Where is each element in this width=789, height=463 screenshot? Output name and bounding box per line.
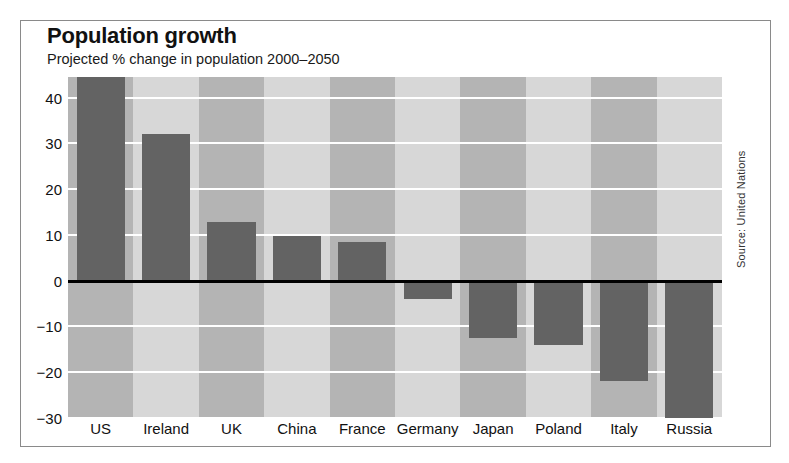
x-tick-label-italy: Italy xyxy=(591,420,656,437)
y-tick-label: 20 xyxy=(16,181,62,198)
x-axis: USIrelandUKChinaFranceGermanyJapanPoland… xyxy=(68,420,722,446)
x-tick-label-uk: UK xyxy=(199,420,264,437)
y-tick-label: −10 xyxy=(16,318,62,335)
y-axis: 403020100−10−20−30 xyxy=(12,77,62,418)
chart-figure: Population growth Projected % change in … xyxy=(0,0,789,463)
x-tick-label-us: US xyxy=(68,420,133,437)
y-tick-label: 10 xyxy=(16,226,62,243)
x-tick-label-ireland: Ireland xyxy=(133,420,198,437)
x-tick-label-china: China xyxy=(264,420,329,437)
source-credit: Source: United Nations xyxy=(735,150,747,268)
y-tick-label: 30 xyxy=(16,135,62,152)
chart-subtitle: Projected % change in population 2000–20… xyxy=(47,50,647,69)
y-tick-label: −30 xyxy=(16,410,62,427)
zero-line xyxy=(68,280,722,283)
x-tick-label-russia: Russia xyxy=(657,420,722,437)
bar-ireland xyxy=(142,134,190,280)
bar-us xyxy=(77,77,125,281)
gridline xyxy=(68,417,722,418)
bar-germany xyxy=(404,281,452,299)
y-tick-label: −20 xyxy=(16,364,62,381)
bar-russia xyxy=(665,281,713,418)
x-tick-label-france: France xyxy=(330,420,395,437)
plot-area-wrapper xyxy=(68,77,722,418)
x-tick-label-poland: Poland xyxy=(526,420,591,437)
bar-italy xyxy=(600,281,648,382)
bar-japan xyxy=(469,281,517,338)
plot-area xyxy=(68,77,722,418)
bar-uk xyxy=(207,222,255,281)
plot-band xyxy=(395,77,460,418)
bar-france xyxy=(338,242,386,280)
x-tick-label-japan: Japan xyxy=(460,420,525,437)
plot-band xyxy=(460,77,525,418)
y-tick-label: 40 xyxy=(16,89,62,106)
title-block: Population growth Projected % change in … xyxy=(47,23,647,69)
page-title: Population growth xyxy=(47,23,647,49)
y-tick-label: 0 xyxy=(16,272,62,289)
plot-band xyxy=(526,77,591,418)
x-tick-label-germany: Germany xyxy=(395,420,460,437)
bar-poland xyxy=(534,281,582,345)
gridline xyxy=(68,97,722,99)
bar-china xyxy=(273,236,321,280)
